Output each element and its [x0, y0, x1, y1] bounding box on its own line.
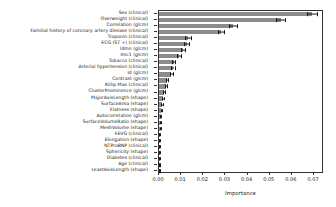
bar [159, 42, 187, 46]
x-axis-tick-label: 0.03 [219, 176, 230, 182]
error-bar-cap-low [307, 12, 308, 16]
error-bar-line [229, 26, 237, 27]
error-bar-cap-high [160, 139, 161, 143]
y-axis-tick-mark [154, 92, 156, 93]
y-axis-tick-mark [154, 128, 156, 129]
x-axis-tick-label: 0.04 [241, 176, 252, 182]
y-axis-tick-label: LeastAxisLength (shape) [91, 167, 148, 173]
y-axis-tick-mark [154, 13, 156, 14]
feature-importance-chart: Sex (clinical)Overweight (clinical)Corre… [0, 0, 336, 207]
error-bar-cap-high [317, 12, 318, 16]
error-bar-cap-high [161, 127, 162, 131]
error-bar-cap-high [237, 24, 238, 28]
error-bar-cap-low [166, 79, 167, 83]
error-bar-cap-high [181, 54, 182, 58]
x-axis-tick-label: 0.01 [175, 176, 186, 182]
error-bar-cap-high [189, 42, 190, 46]
y-axis-tick-mark [154, 25, 156, 26]
y-axis-tick-mark [154, 158, 156, 159]
y-axis-tick-mark [154, 134, 156, 135]
bar [159, 18, 281, 22]
x-axis-tick-label: 0.06 [285, 176, 296, 182]
error-bar-cap-low [162, 97, 163, 101]
error-bar-line [276, 20, 285, 21]
y-axis-tick-mark [154, 37, 156, 38]
x-axis-tick-label: 0.07 [307, 176, 318, 182]
y-axis-tick-mark [154, 43, 156, 44]
error-bar-cap-high [160, 151, 161, 155]
error-bar-cap-high [163, 103, 164, 107]
error-bar-cap-low [165, 85, 166, 89]
error-bar-cap-high [161, 121, 162, 125]
y-axis-tick-mark [154, 140, 156, 141]
y-axis-tick-mark [154, 164, 156, 165]
x-axis-tick-label: 0.05 [263, 176, 274, 182]
error-bar-cap-high [191, 36, 192, 40]
x-axis-title: Importance [158, 190, 323, 196]
y-axis-tick-mark [154, 61, 156, 62]
y-axis-tick-mark [154, 146, 156, 147]
y-axis-tick-mark [154, 79, 156, 80]
error-bar-cap-low [172, 61, 173, 65]
error-bar-cap-high [167, 85, 168, 89]
x-axis-tick-label: 0.00 [152, 176, 163, 182]
error-bar-cap-high [160, 157, 161, 161]
error-bar-cap-high [162, 109, 163, 113]
error-bar-cap-low [276, 18, 277, 22]
error-bar-cap-low [184, 42, 185, 46]
y-axis-tick-mark [154, 73, 156, 74]
y-axis-tick-mark [154, 152, 156, 153]
error-bar-cap-high [160, 133, 161, 137]
error-bar-cap-low [181, 48, 182, 52]
error-bar-cap-high [160, 145, 161, 149]
y-axis-tick-mark [154, 110, 156, 111]
error-bar-line [307, 14, 317, 15]
error-bar-cap-low [163, 91, 164, 95]
plot-area [158, 10, 323, 173]
y-axis-tick-mark [154, 85, 156, 86]
error-bar-cap-high [175, 67, 176, 71]
y-axis-tick-mark [154, 67, 156, 68]
error-bar-line [218, 32, 225, 33]
error-bar-cap-low [161, 103, 162, 107]
y-axis-tick-mark [154, 98, 156, 99]
error-bar-cap-high [168, 79, 169, 83]
y-axis-tick-mark [154, 31, 156, 32]
error-bar-cap-high [160, 163, 161, 167]
error-bar-cap-low [218, 30, 219, 34]
error-bar-cap-high [164, 97, 165, 101]
y-axis-tick-mark [154, 170, 156, 171]
error-bar-cap-low [229, 24, 230, 28]
error-bar-cap-low [177, 54, 178, 58]
bar [159, 30, 221, 34]
error-bar-cap-high [175, 61, 176, 65]
error-bar-cap-high [165, 91, 166, 95]
bar [159, 24, 233, 28]
error-bar-cap-low [171, 67, 172, 71]
y-axis-tick-mark [154, 19, 156, 20]
bar [159, 12, 312, 16]
y-axis-tick-mark [154, 122, 156, 123]
y-axis-tick-labels: Sex (clinical)Overweight (clinical)Corre… [0, 10, 154, 173]
error-bar-cap-high [185, 48, 186, 52]
y-axis-tick-mark [154, 104, 156, 105]
error-bar-cap-high [285, 18, 286, 22]
error-bar-cap-high [161, 115, 162, 119]
error-bar-cap-low [170, 73, 171, 77]
error-bar-cap-high [224, 30, 225, 34]
bar [159, 36, 188, 40]
bar [159, 48, 183, 52]
x-axis-tick-label: 0.02 [197, 176, 208, 182]
x-axis-ticks: 0.000.010.020.030.040.050.060.07 [158, 173, 323, 185]
y-axis-tick-mark [154, 55, 156, 56]
y-axis-tick-mark [154, 116, 156, 117]
bar [159, 54, 179, 58]
error-bar-cap-high [173, 73, 174, 77]
y-axis-tick-mark [154, 49, 156, 50]
error-bar-cap-low [185, 36, 186, 40]
